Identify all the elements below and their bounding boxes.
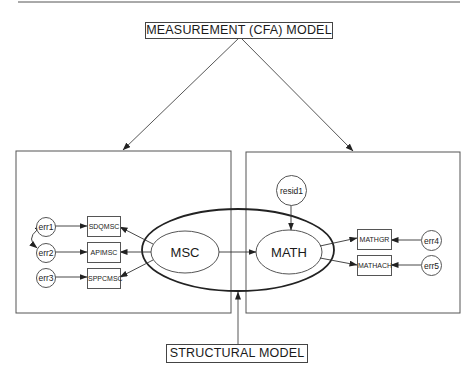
error-err2: err2 <box>36 243 56 263</box>
error-err4: err4 <box>421 230 442 251</box>
structural-model-label: STRUCTURAL MODEL <box>166 344 308 363</box>
measurement-arrow-left <box>123 37 240 150</box>
measurement-arrow-right <box>240 37 353 151</box>
covariance-err1-err2 <box>32 230 38 248</box>
path-msc-sppcmsc <box>120 260 153 277</box>
residual-resid1: resid1 <box>276 175 307 206</box>
latent-msc: MSC <box>151 231 219 273</box>
measurement-model-label: MEASUREMENT (CFA) MODEL <box>145 22 333 39</box>
observed-sppcmsc: SPPCMSC <box>87 268 121 289</box>
diagram-canvas <box>0 0 474 375</box>
observed-mathach: MATHACH <box>357 255 392 276</box>
observed-apimsc: APIMSC <box>87 242 121 263</box>
path-math-mathgr <box>320 238 357 246</box>
error-err1: err1 <box>36 217 56 237</box>
path-math-mathach <box>320 258 357 265</box>
error-err5: err5 <box>421 255 442 276</box>
observed-sdqmsc: SDQMSC <box>87 216 121 237</box>
latent-math: MATH <box>256 230 322 274</box>
observed-mathgr: MATHGR <box>357 229 392 250</box>
error-err3: err3 <box>36 268 56 288</box>
